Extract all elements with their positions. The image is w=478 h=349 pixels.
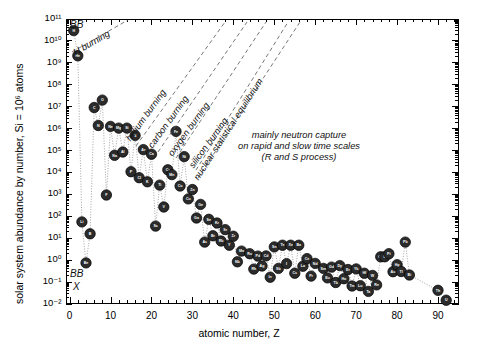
marker-element-label: Lu bbox=[358, 284, 362, 288]
marker-element-label: Sn bbox=[272, 245, 277, 249]
marker-element-label: Zr bbox=[232, 234, 236, 238]
data-point-zr[interactable]: Zr bbox=[228, 231, 238, 241]
marker-element-label: N bbox=[97, 124, 100, 128]
marker-element-label: W bbox=[371, 274, 375, 278]
marker-element-label: Cu bbox=[186, 197, 191, 201]
marker-element-label: Li bbox=[80, 220, 83, 224]
data-point-cs[interactable]: Cs bbox=[290, 268, 300, 278]
marker-element-label: K bbox=[146, 180, 149, 184]
data-point-pb[interactable]: Pb bbox=[400, 237, 410, 247]
marker-element-label: C bbox=[93, 106, 96, 110]
data-point-v[interactable]: V bbox=[159, 202, 169, 212]
data-point-ga[interactable]: Ga bbox=[191, 213, 201, 223]
marker-element-label: B bbox=[89, 232, 92, 236]
label-neutron-capture-line3: (R and S process) bbox=[0, 152, 478, 162]
marker-element-label: Pr bbox=[309, 274, 313, 278]
marker-element-label: Cl bbox=[137, 176, 141, 180]
marker-element-label: Br bbox=[211, 234, 216, 238]
marker-element-label: Tm bbox=[349, 284, 354, 288]
marker-element-label: Gd bbox=[329, 265, 334, 269]
marker-element-label: Co bbox=[178, 184, 184, 188]
data-point-nb[interactable]: Nb bbox=[232, 257, 242, 267]
data-point-ag[interactable]: Ag bbox=[257, 261, 267, 271]
marker-element-label: Mn bbox=[169, 173, 174, 177]
marker-element-label: Tl bbox=[400, 270, 403, 274]
marker-element-label: Pb bbox=[403, 240, 408, 244]
marker-element-label: Sb bbox=[276, 267, 281, 271]
marker-element-label: Kr bbox=[215, 221, 220, 225]
data-point-pr[interactable]: Pr bbox=[306, 271, 316, 281]
marker-element-label: Th bbox=[436, 289, 440, 293]
data-point-f[interactable]: F bbox=[101, 190, 111, 200]
data-series-layer: HHeLiBeBCNOFNeNaMgAlSiPSClArKCaScTiVCrMn… bbox=[0, 0, 478, 349]
data-point-i[interactable]: I bbox=[281, 258, 291, 268]
marker-element-label: Bi bbox=[408, 273, 412, 277]
marker-element-label: Xe bbox=[288, 243, 292, 247]
marker-element-label: Cs bbox=[292, 271, 297, 275]
data-point-ho[interactable]: Ho bbox=[339, 274, 349, 284]
data-point-u[interactable]: U bbox=[441, 295, 451, 305]
label-neutron-capture-line2: on rapid and slow time scales bbox=[0, 141, 478, 151]
data-point-c[interactable]: C bbox=[89, 102, 99, 112]
data-point-li[interactable]: Li bbox=[77, 217, 87, 227]
data-point-o[interactable]: O bbox=[97, 95, 107, 105]
marker-element-label: U bbox=[445, 298, 448, 302]
data-point-sc[interactable]: Sc bbox=[150, 221, 160, 231]
marker-element-label: Zn bbox=[190, 188, 194, 192]
marker-element-label: Pd bbox=[256, 254, 261, 258]
marker-element-label: Mo bbox=[239, 249, 245, 253]
label-bb-top: BB bbox=[70, 19, 83, 30]
data-point-ge[interactable]: Ge bbox=[195, 199, 205, 209]
data-point-w[interactable]: W bbox=[367, 270, 377, 280]
marker-element-label: In bbox=[269, 275, 272, 279]
marker-element-label: O bbox=[101, 98, 104, 102]
data-point-in[interactable]: In bbox=[265, 272, 275, 282]
marker-element-label: Nb bbox=[235, 260, 241, 264]
marker-element-label: Eu bbox=[325, 276, 330, 280]
marker-element-label: Cd bbox=[264, 254, 269, 258]
data-point-cu[interactable]: Cu bbox=[183, 194, 193, 204]
marker-element-label: Te bbox=[281, 243, 285, 247]
data-point-mn[interactable]: Mn bbox=[167, 169, 177, 179]
marker-element-label: Yb bbox=[354, 267, 359, 271]
helium-burning-guide bbox=[136, 22, 225, 146]
marker-element-label: Nd bbox=[313, 262, 318, 266]
marker-element-label: Ne bbox=[108, 125, 113, 129]
marker-element-label: Ho bbox=[342, 277, 348, 281]
marker-element-label: Ru bbox=[247, 252, 252, 256]
data-point-be[interactable]: Be bbox=[81, 258, 91, 268]
data-point-pt[interactable]: Pt bbox=[384, 249, 394, 259]
label-bb-bottom: BB bbox=[70, 268, 83, 279]
marker-element-label: Dy bbox=[337, 264, 342, 268]
data-point-bi[interactable]: Bi bbox=[404, 270, 414, 280]
data-point-zn[interactable]: Zn bbox=[187, 184, 197, 194]
marker-element-label: Hg bbox=[395, 263, 400, 267]
data-point-re[interactable]: Re bbox=[371, 280, 381, 290]
marker-element-label: Rh bbox=[251, 267, 256, 271]
marker-element-label: Ti bbox=[158, 183, 161, 187]
data-point-ba[interactable]: Ba bbox=[294, 240, 304, 250]
marker-element-label: Ag bbox=[260, 264, 265, 268]
marker-element-label: Rb bbox=[219, 239, 225, 243]
marker-element-label: Au bbox=[391, 270, 396, 274]
label-x-bottom: X bbox=[73, 281, 80, 292]
data-point-co[interactable]: Co bbox=[175, 181, 185, 191]
marker-element-label: Sr bbox=[223, 228, 227, 232]
marker-element-label: Be bbox=[84, 261, 89, 265]
marker-element-label: Sm bbox=[321, 267, 327, 271]
data-point-th[interactable]: Th bbox=[433, 285, 443, 295]
chart-root: solar system abundance by number, Si = 1… bbox=[0, 0, 478, 349]
marker-element-label: Re bbox=[374, 283, 379, 287]
data-point-k[interactable]: K bbox=[142, 177, 152, 187]
data-point-ti[interactable]: Ti bbox=[155, 180, 165, 190]
label-neutron-capture-line1: mainly neutron capture bbox=[0, 130, 478, 140]
marker-element-label: Sc bbox=[153, 224, 157, 228]
marker-element-label: Ge bbox=[198, 203, 203, 207]
marker-element-label: I bbox=[286, 262, 287, 266]
data-point-cd[interactable]: Cd bbox=[261, 251, 271, 261]
marker-element-label: Ce bbox=[305, 257, 310, 261]
marker-element-label: Se bbox=[207, 218, 211, 222]
marker-element-label: Er bbox=[346, 268, 350, 272]
marker-element-label: As bbox=[202, 240, 207, 244]
data-point-b[interactable]: B bbox=[85, 229, 95, 239]
